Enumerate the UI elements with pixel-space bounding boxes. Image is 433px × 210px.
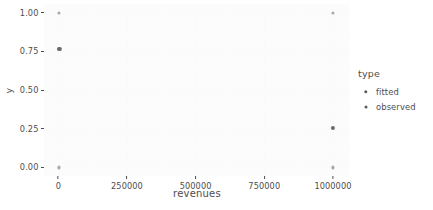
y-axis-tick: 0.25 [20,123,44,135]
x-axis-tick-mark [58,176,59,179]
y-axis-tick: 1.00 [20,7,44,19]
grid-line-horizontal [44,167,350,168]
grid-line-vertical-minor [299,4,300,176]
legend: type fittedobserved [358,68,432,114]
grid-line-horizontal [44,129,350,130]
legend-item-fitted[interactable]: fitted [358,84,432,99]
legend-key-dot-icon [358,84,373,99]
grid-line-horizontal [44,51,350,52]
x-axis-tick-mark [332,176,333,179]
legend-item-label: observed [376,102,416,112]
grid-line-vertical [333,4,334,176]
grid-line-vertical [264,4,265,176]
grid-line-horizontal-minor [44,32,350,33]
x-axis-tick-mark [126,176,127,179]
grid-line-vertical-minor [161,4,162,176]
y-axis-title: y [2,0,16,180]
x-axis-title: revenues [44,188,350,199]
y-axis-tick-label: 0.75 [20,46,39,56]
data-point-observed [331,11,334,14]
legend-items: fittedobserved [358,84,432,114]
grid-line-horizontal [44,13,350,14]
grid-line-horizontal [44,90,350,91]
grid-line-vertical [58,4,59,176]
scatter-plot: 0.000.250.500.751.00 y 02500005000007500… [0,0,433,210]
y-axis-title-label: y [3,87,14,93]
y-axis-tick-label: 0.50 [20,85,39,95]
data-point-observed [58,166,61,169]
y-axis-tick: 0.75 [20,45,44,57]
x-axis-tick-mark [195,176,196,179]
grid-line-vertical [127,4,128,176]
y-axis-tick: 0.00 [20,161,44,173]
grid-line-horizontal-minor [44,71,350,72]
data-point-observed [58,11,61,14]
grid-line-horizontal-minor [44,109,350,110]
data-point-observed [331,166,334,169]
y-axis-tick-label: 0.00 [20,162,39,172]
y-axis-tick: 0.50 [20,84,44,96]
y-axis-tick-label: 0.25 [20,124,39,134]
grid-line-vertical-minor [230,4,231,176]
legend-key-dot-icon [358,99,373,114]
legend-title: type [358,68,432,79]
y-axis-tick-label: 1.00 [20,8,39,18]
grid-line-vertical-minor [93,4,94,176]
legend-item-observed[interactable]: observed [358,99,432,114]
plot-panel [44,4,350,176]
x-axis-tick-mark [264,176,265,179]
legend-item-label: fitted [376,87,399,97]
grid-line-horizontal-minor [44,148,350,149]
grid-line-vertical [196,4,197,176]
